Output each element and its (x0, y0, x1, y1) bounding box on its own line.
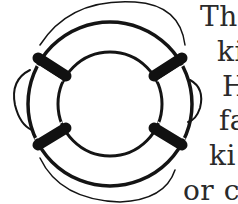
text-line-3: H (222, 73, 238, 101)
text-line-1: The (200, 3, 238, 31)
text-line-5: ki (209, 142, 236, 170)
text-line-4: fa (219, 107, 238, 135)
text-line-6: or cl (183, 177, 238, 204)
text-line-2: ki (217, 38, 238, 66)
